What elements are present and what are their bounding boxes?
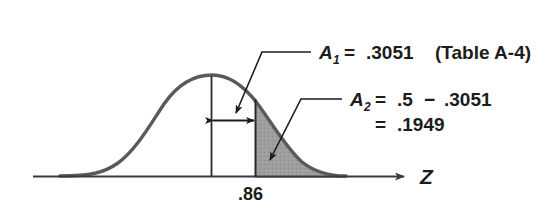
a2-value-first: .5 xyxy=(397,89,413,110)
a1-equals: = xyxy=(344,42,355,63)
z-axis-label: Z xyxy=(419,165,434,188)
a2-minus-sign: − xyxy=(424,89,435,110)
a1-table-note: (Table A-4) xyxy=(435,42,531,63)
a1-subscript: 1 xyxy=(333,53,340,67)
a2-equals-second: = xyxy=(375,114,386,135)
a2-equals: = xyxy=(375,89,386,110)
a2-subtrahend: .3051 xyxy=(444,89,492,110)
a1-symbol: A xyxy=(318,42,333,63)
a1-label-group: A 1 = .3051 (Table A-4) xyxy=(318,42,531,67)
a1-value: .3051 xyxy=(366,42,414,63)
a2-label-group: A 2 = .5 − .3051 = .1949 xyxy=(349,89,492,135)
a2-result-value: .1949 xyxy=(397,114,445,135)
a2-symbol: A xyxy=(349,89,364,110)
normal-curve xyxy=(60,75,346,176)
tick-label-086: .86 xyxy=(238,184,263,204)
a1-leader-line xyxy=(236,52,311,113)
a2-subscript: 2 xyxy=(363,100,371,114)
distribution-svg: A 1 = .3051 (Table A-4) A 2 = .5 − .3051… xyxy=(0,0,557,211)
normal-distribution-figure: A 1 = .3051 (Table A-4) A 2 = .5 − .3051… xyxy=(0,0,557,211)
